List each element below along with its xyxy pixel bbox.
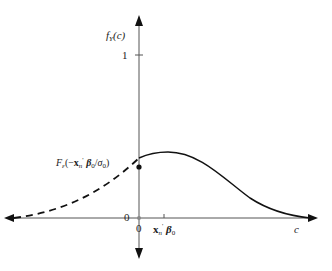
y-axis-label: fY(c) xyxy=(106,30,125,43)
x-axis-label: c xyxy=(294,224,299,235)
x-tick-zero-label: 0 xyxy=(136,223,142,234)
density-curve xyxy=(139,152,310,218)
y-axis-up-arrow-icon xyxy=(135,15,143,26)
y-tick-one-label: 1 xyxy=(122,50,128,61)
origin-point xyxy=(137,216,141,220)
mass-point-label: Fε(−xn' β0/σ0) xyxy=(56,157,109,170)
x-tick-mean-label: xn' β0 xyxy=(153,223,175,237)
y-axis-down-arrow-icon xyxy=(135,248,143,259)
x-axis-left-arrow-icon xyxy=(4,214,14,222)
y-tick-zero-label: 0 xyxy=(124,212,130,223)
mass-point xyxy=(136,164,141,169)
